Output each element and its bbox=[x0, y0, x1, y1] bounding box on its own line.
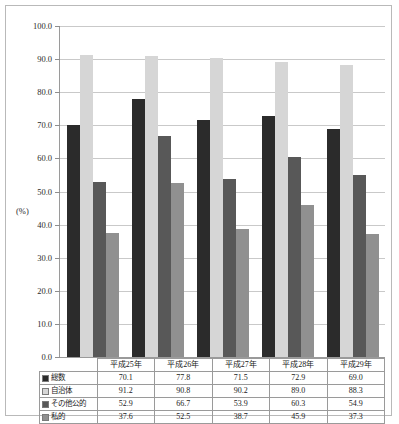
table-cell: 71.5 bbox=[212, 372, 270, 385]
y-axis-tick-label: 60.0 bbox=[37, 154, 52, 163]
legend-label: その他公的 bbox=[51, 399, 86, 408]
table-column-header: 平成26年 bbox=[155, 359, 213, 372]
y-axis-tick-label: 80.0 bbox=[37, 88, 52, 97]
table-cell: 70.1 bbox=[97, 372, 155, 385]
table-cell: 52.5 bbox=[155, 411, 213, 424]
bar bbox=[171, 183, 184, 357]
bar bbox=[145, 56, 158, 357]
table-row: 自治体91.290.890.289.088.3 bbox=[40, 385, 385, 398]
bar bbox=[301, 205, 314, 357]
table-cell: 52.9 bbox=[97, 398, 155, 411]
bar bbox=[210, 58, 223, 357]
table-body: 総数70.177.871.572.969.0自治体91.290.890.289.… bbox=[40, 372, 385, 424]
bar-group bbox=[190, 26, 255, 357]
bar-groups bbox=[60, 26, 385, 357]
table-cell: 90.2 bbox=[212, 385, 270, 398]
table-column-header: 平成28年 bbox=[270, 359, 328, 372]
y-axis-tick-label: 10.0 bbox=[37, 320, 52, 329]
table-row-header: 私的 bbox=[40, 411, 98, 424]
table-cell: 54.9 bbox=[327, 398, 385, 411]
legend-swatch-icon bbox=[42, 414, 49, 421]
bar bbox=[353, 175, 366, 357]
bar bbox=[262, 116, 275, 357]
table-cell: 90.8 bbox=[155, 385, 213, 398]
bar-group bbox=[60, 26, 125, 357]
table-cell: 38.7 bbox=[212, 411, 270, 424]
bar-group bbox=[255, 26, 320, 357]
table-row-header: 総数 bbox=[40, 372, 98, 385]
table-cell: 91.2 bbox=[97, 385, 155, 398]
table-row: その他公的52.966.753.960.354.9 bbox=[40, 398, 385, 411]
table-cell: 53.9 bbox=[212, 398, 270, 411]
bar bbox=[327, 129, 340, 357]
data-table: 平成25年平成26年平成27年平成28年平成29年 総数70.177.871.5… bbox=[39, 358, 385, 424]
table-row-header: その他公的 bbox=[40, 398, 98, 411]
bar bbox=[236, 229, 249, 357]
bar bbox=[67, 125, 80, 357]
table-cell: 72.9 bbox=[270, 372, 328, 385]
legend-swatch-icon bbox=[42, 388, 49, 395]
bar bbox=[288, 157, 301, 357]
legend-swatch-icon bbox=[42, 401, 49, 408]
table-column-header: 平成27年 bbox=[212, 359, 270, 372]
table-cell: 60.3 bbox=[270, 398, 328, 411]
bar bbox=[366, 234, 379, 357]
table-cell: 37.3 bbox=[327, 411, 385, 424]
bar bbox=[93, 182, 106, 357]
y-axis-unit-label: (%) bbox=[16, 206, 29, 216]
y-axis-tick-label: 90.0 bbox=[37, 55, 52, 64]
y-axis-tick-label: 40.0 bbox=[37, 220, 52, 229]
table-row: 私的37.652.538.745.937.3 bbox=[40, 411, 385, 424]
table-cell: 66.7 bbox=[155, 398, 213, 411]
table-header-row: 平成25年平成26年平成27年平成28年平成29年 bbox=[40, 359, 385, 372]
bar bbox=[80, 55, 93, 357]
y-axis-tick-label: 30.0 bbox=[37, 253, 52, 262]
y-axis-tick-label: 20.0 bbox=[37, 287, 52, 296]
y-axis-tick-label: 100.0 bbox=[33, 22, 52, 31]
plot-area: 100.090.080.070.060.050.040.030.020.010.… bbox=[59, 26, 385, 358]
table-column-header: 平成29年 bbox=[327, 359, 385, 372]
table-cell: 45.9 bbox=[270, 411, 328, 424]
bar bbox=[340, 65, 353, 357]
legend-label: 自治体 bbox=[51, 386, 72, 395]
table-cell: 89.0 bbox=[270, 385, 328, 398]
bar bbox=[132, 99, 145, 357]
bar bbox=[223, 179, 236, 357]
y-axis-tick-label: 70.0 bbox=[37, 121, 52, 130]
bar bbox=[197, 120, 210, 357]
table-cell: 37.6 bbox=[97, 411, 155, 424]
bar bbox=[275, 62, 288, 357]
chart-figure: (%) 100.090.080.070.060.050.040.030.020.… bbox=[5, 5, 392, 416]
table-cell: 88.3 bbox=[327, 385, 385, 398]
bar-group bbox=[320, 26, 385, 357]
table-corner-cell bbox=[40, 359, 98, 372]
table-cell: 69.0 bbox=[327, 372, 385, 385]
table-row: 総数70.177.871.572.969.0 bbox=[40, 372, 385, 385]
legend-swatch-icon bbox=[42, 375, 49, 382]
bar-group bbox=[125, 26, 190, 357]
y-axis-tick-label: 50.0 bbox=[37, 187, 52, 196]
legend-label: 総数 bbox=[51, 373, 65, 382]
legend-label: 私的 bbox=[51, 412, 65, 421]
bar bbox=[106, 233, 119, 357]
bar bbox=[158, 136, 171, 357]
table-column-header: 平成25年 bbox=[97, 359, 155, 372]
table-cell: 77.8 bbox=[155, 372, 213, 385]
table-row-header: 自治体 bbox=[40, 385, 98, 398]
